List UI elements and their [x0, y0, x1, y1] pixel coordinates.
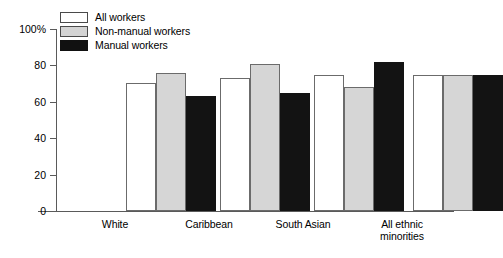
legend-label-all-workers: All workers [95, 12, 145, 23]
bar-all-workers [413, 75, 443, 211]
legend-label-non-manual-workers: Non-manual workers [95, 26, 190, 37]
y-axis-tick-label: 100% [0, 24, 46, 34]
x-axis-label: White [65, 218, 165, 230]
bar-all-workers [126, 83, 156, 211]
light-gray-swatch-icon [60, 26, 88, 37]
bar-manual-workers [473, 75, 503, 211]
y-axis-tick-label: 60 [0, 97, 46, 107]
white-swatch-icon [60, 12, 88, 23]
plot-area [56, 29, 452, 211]
bar-all-workers [314, 75, 344, 211]
legend-label-manual-workers: Manual workers [95, 40, 168, 51]
black-swatch-icon [60, 40, 88, 51]
legend-item-non-manual-workers: Non-manual workers [60, 24, 190, 38]
legend-item-manual-workers: Manual workers [60, 38, 190, 52]
bar-manual-workers [280, 93, 310, 211]
bar-non-manual-workers [250, 64, 280, 211]
chart-legend: All workers Non-manual workers Manual wo… [60, 10, 190, 52]
y-axis-tick-label: 20 [0, 170, 46, 180]
y-axis-tick [50, 211, 56, 212]
y-axis-tick-label: 80 [0, 60, 46, 70]
y-axis-tick-label: 0 [0, 206, 46, 216]
legend-item-all-workers: All workers [60, 10, 190, 24]
y-axis-tick-label: 40 [0, 133, 46, 143]
x-axis-label: All ethnic minorities [352, 218, 452, 242]
bar-all-workers [220, 78, 250, 211]
bar-non-manual-workers [156, 73, 186, 211]
bar-non-manual-workers [344, 87, 374, 211]
bar-non-manual-workers [443, 75, 473, 211]
x-axis-label: South Asian [253, 218, 353, 230]
bar-manual-workers [374, 62, 404, 211]
bar-manual-workers [186, 96, 216, 211]
x-axis-line [38, 211, 454, 212]
x-axis-label: Caribbean [159, 218, 259, 230]
